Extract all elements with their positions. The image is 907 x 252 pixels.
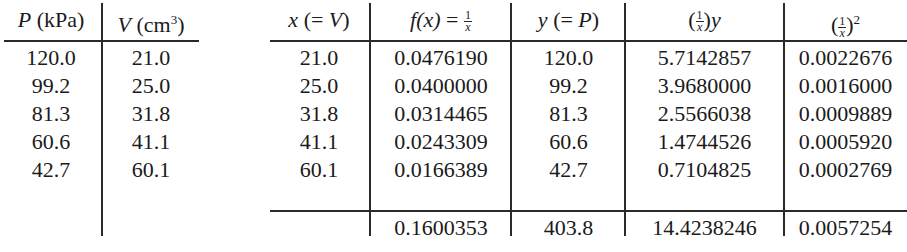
total-sum-y: 403.8 <box>512 214 625 242</box>
right-cell: 31.8 <box>268 100 370 128</box>
right-cell: 25.0 <box>268 72 370 100</box>
right-cell: 0.0005920 <box>784 128 907 156</box>
total-sum-inv-x: 0.1600353 <box>371 214 511 242</box>
close-paren: ) <box>846 12 853 37</box>
right-cell: 99.2 <box>512 72 625 100</box>
left-cell: 60.6 <box>0 128 102 156</box>
right-cell: 0.0016000 <box>784 72 907 100</box>
var-y: y <box>711 7 721 32</box>
var-y: y <box>538 7 548 32</box>
right-cell: 81.3 <box>512 100 625 128</box>
var-p: P <box>578 7 591 32</box>
exponent: 2 <box>854 12 861 27</box>
frac-den: x <box>464 22 472 33</box>
header-x: x (= V) <box>268 6 370 34</box>
left-cell: 60.1 <box>103 156 199 184</box>
left-cell: 99.2 <box>0 72 102 100</box>
right-cell: 0.7104825 <box>626 156 783 184</box>
right-cell: 0.0009889 <box>784 100 907 128</box>
header-pressure: P (kPa) <box>0 6 102 34</box>
close-paren: ) <box>704 7 711 32</box>
right-cell: 42.7 <box>512 156 625 184</box>
open-paren: ( <box>831 12 838 37</box>
close-paren: ) <box>342 7 349 32</box>
header-inv-x-times-y: (1x)y <box>626 6 783 34</box>
unit-close: ) <box>177 12 184 37</box>
fraction-one-over-x: 1x <box>696 10 704 33</box>
right-header-rule <box>270 40 907 42</box>
left-cell: 25.0 <box>103 72 199 100</box>
fraction-one-over-x: 1x <box>464 10 472 33</box>
right-cell: 0.0022676 <box>784 44 907 72</box>
right-cell: 0.0243309 <box>371 128 511 156</box>
right-cell: 2.5566038 <box>626 100 783 128</box>
unit-cm: (cm <box>136 12 170 37</box>
header-fx: f(x) = 1x <box>371 6 511 34</box>
left-cell: 120.0 <box>0 44 102 72</box>
unit-kpa: (kPa) <box>37 7 85 32</box>
right-cell: 0.0166389 <box>371 156 511 184</box>
eq-text: = <box>441 7 464 32</box>
right-cell: 0.0314465 <box>371 100 511 128</box>
right-cell: 60.1 <box>268 156 370 184</box>
var-v: V <box>118 12 131 37</box>
right-cell: 0.0476190 <box>371 44 511 72</box>
total-sum-inv-x-y: 14.4238246 <box>626 214 783 242</box>
func-fx: f(x) <box>410 7 441 32</box>
var-v: V <box>329 7 342 32</box>
right-cell: 120.0 <box>512 44 625 72</box>
left-cell: 31.8 <box>103 100 199 128</box>
right-cell: 60.6 <box>512 128 625 156</box>
right-cell: 41.1 <box>268 128 370 156</box>
left-cell: 81.3 <box>0 100 102 128</box>
right-cell: 21.0 <box>268 44 370 72</box>
open-paren: ( <box>688 7 695 32</box>
right-totals-rule <box>270 210 907 212</box>
frac-den: x <box>696 22 704 33</box>
var-p: P <box>18 7 31 32</box>
total-sum-inv-x-sq: 0.0057254 <box>784 214 907 242</box>
right-cell: 1.4744526 <box>626 128 783 156</box>
eq-text: (= <box>548 7 579 32</box>
right-cell: 5.7142857 <box>626 44 783 72</box>
header-y: y (= P) <box>512 6 625 34</box>
right-cell: 3.9680000 <box>626 72 783 100</box>
var-x: x <box>288 7 298 32</box>
left-cell: 21.0 <box>103 44 199 72</box>
close-paren: ) <box>592 7 599 32</box>
right-cell: 0.0002769 <box>784 156 907 184</box>
header-volume: V (cm3) <box>103 6 199 39</box>
header-inv-x-squared: (1x)2 <box>784 6 907 39</box>
left-cell: 41.1 <box>103 128 199 156</box>
right-cell: 0.0400000 <box>371 72 511 100</box>
left-cell: 42.7 <box>0 156 102 184</box>
eq-text: (= <box>298 7 329 32</box>
